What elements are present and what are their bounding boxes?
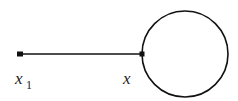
loop-circle xyxy=(142,11,228,97)
label-x: x xyxy=(122,69,131,88)
endpoint-marker-x1 xyxy=(17,52,23,57)
endpoint-marker-x xyxy=(140,52,145,57)
diagram-canvas: x 1 x xyxy=(0,0,238,101)
label-x1: x xyxy=(14,69,23,88)
label-x1-subscript: 1 xyxy=(26,78,32,92)
